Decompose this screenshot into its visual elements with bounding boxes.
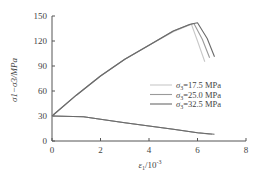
series-line-deviatoric: [52, 24, 205, 116]
x-tick-label: 0: [50, 145, 55, 155]
x-tick-label: 2: [98, 145, 103, 155]
y-tick-label: 0: [43, 136, 48, 146]
x-tick-label: 8: [244, 145, 249, 155]
stress-strain-chart: 030609012015002468 σ3=17.5 MPaσ3=25.0 MP…: [0, 0, 261, 185]
series-line-lateral: [52, 116, 215, 134]
x-tick-label: 4: [147, 145, 152, 155]
y-tick-label: 120: [34, 36, 48, 46]
legend-label: σ3=32.5 MPa: [176, 99, 221, 110]
legend: σ3=17.5 MPaσ3=25.0 MPaσ3=32.5 MPa: [150, 80, 221, 110]
y-tick-label: 90: [38, 61, 48, 71]
x-axis-label: ε1/10-3: [138, 159, 161, 171]
x-tick-label: 6: [195, 145, 200, 155]
y-tick-label: 150: [34, 11, 48, 21]
y-tick-label: 30: [38, 111, 48, 121]
y-axis-label: σ1−σ3/MPa: [9, 58, 19, 102]
y-tick-label: 60: [38, 86, 48, 96]
series-lines: [52, 23, 215, 135]
